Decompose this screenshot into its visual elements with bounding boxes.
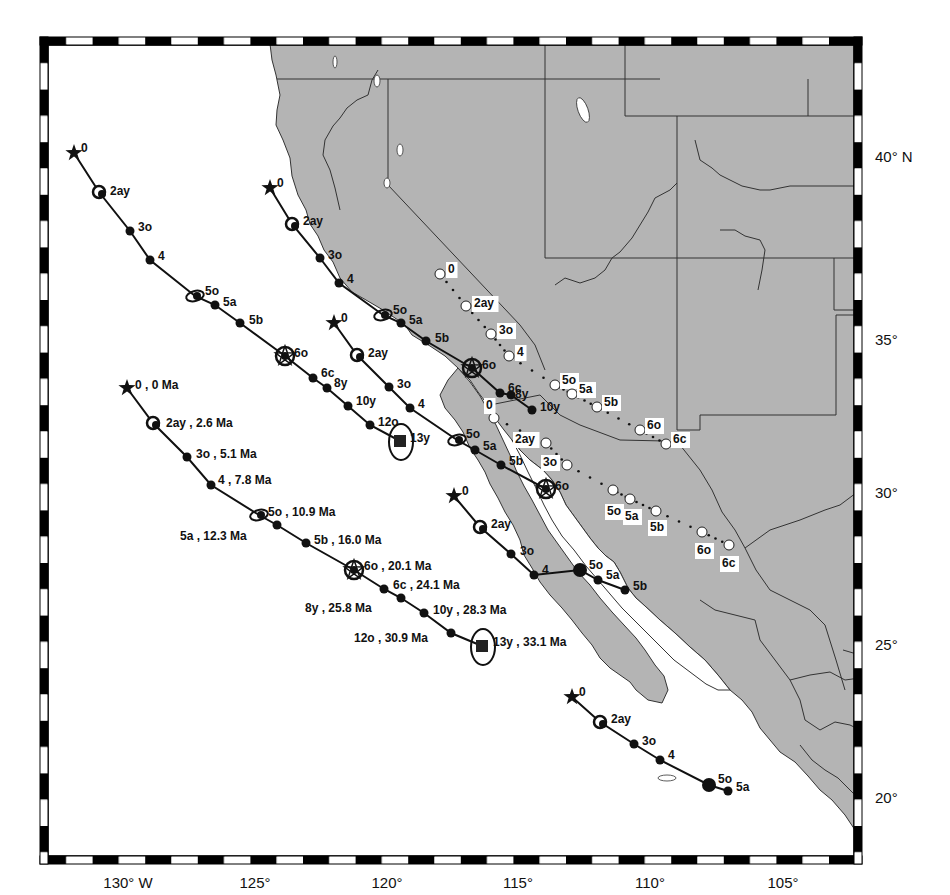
lon-label: 120°: [371, 874, 402, 891]
open-circle-marker-icon: [567, 389, 577, 399]
point-label: 4: [347, 272, 354, 286]
point-label: 6c , 24.1 Ma: [393, 578, 460, 592]
point-label: 8y: [515, 387, 529, 401]
frame-ticks-top: [40, 37, 862, 45]
dotted-path: [617, 417, 620, 420]
longitude-labels: 130° W 125° 120° 115° 110° 105°: [103, 874, 798, 891]
lon-label: 130° W: [103, 874, 153, 891]
point-label: 8y , 25.8 Ma: [305, 601, 372, 615]
point-label: 6o: [647, 418, 661, 432]
point-label: 5b: [249, 313, 263, 327]
point-label: 5a: [409, 313, 423, 327]
dot-marker-icon: [530, 571, 539, 580]
point-label: 4: [517, 345, 524, 359]
dot-marker-icon: [656, 756, 665, 765]
point-label: 2ay: [515, 432, 535, 446]
ring-marker-icon: [286, 218, 299, 230]
lat-label: 30°: [875, 484, 898, 501]
point-label: 5o: [718, 772, 732, 786]
open-circle-marker-icon: [562, 460, 572, 470]
dotted-path: [600, 482, 603, 485]
open-circle-marker-icon: [625, 494, 635, 504]
open-circle-marker-icon: [661, 439, 671, 449]
dotted-path: [452, 289, 455, 292]
dot-marker-icon: [380, 585, 389, 594]
lon-label: 110°: [635, 874, 665, 891]
open-circle-marker-icon: [697, 527, 707, 537]
open-circle-marker-icon: [541, 438, 551, 448]
point-label: 3o: [543, 455, 557, 469]
point-label: 6o: [482, 358, 496, 372]
dot-marker-icon: [236, 319, 245, 328]
dot-marker-icon: [302, 539, 311, 548]
open-circle-marker-icon: [635, 425, 645, 435]
point-label: 5o: [393, 303, 407, 317]
latitude-labels: 40° N 35° 30° 25° 20°: [875, 148, 913, 806]
dotted-path: [499, 344, 502, 347]
dot-marker-icon: [211, 301, 220, 310]
lat-label: 40° N: [875, 148, 913, 165]
point-label: 5b , 16.0 Ma: [314, 533, 382, 547]
dotted-path: [589, 476, 592, 479]
dot-marker-icon: [447, 629, 456, 638]
dot-marker-icon: [323, 384, 332, 393]
open-circle-marker-icon: [486, 329, 496, 339]
point-label: 13y , 33.1 Ma: [493, 635, 567, 649]
point-label: 5b: [650, 520, 664, 534]
dotted-path: [477, 319, 480, 322]
dot-marker-icon: [422, 337, 431, 346]
dotted-path: [494, 338, 497, 341]
dot-marker-icon: [420, 609, 429, 618]
open-circle-marker-icon: [608, 485, 618, 495]
ring-marker-icon: [351, 349, 364, 361]
dot-marker-icon: [183, 453, 192, 462]
open-circle-marker-icon: [435, 269, 445, 279]
point-label: 0: [81, 141, 88, 155]
point-label: 6c: [321, 366, 335, 380]
point-label: 5o , 10.9 Ma: [268, 505, 336, 519]
dotted-path: [503, 349, 506, 352]
dot-marker-icon: [207, 481, 216, 490]
point-label: 4: [158, 249, 165, 263]
point-label: 5o: [205, 284, 219, 298]
ring-marker-icon: [147, 417, 160, 429]
ring-marker-icon: [474, 521, 487, 533]
dot-marker-icon: [344, 402, 353, 411]
point-label: 5b: [509, 454, 523, 468]
point-label: 8y: [334, 376, 348, 390]
open-circle-marker-icon: [651, 506, 661, 516]
dotted-path: [445, 281, 448, 284]
point-label: 5a: [579, 382, 593, 396]
point-label: 5o: [607, 504, 621, 518]
point-label: 5a , 12.3 Ma: [180, 529, 247, 543]
point-label: 2ay: [303, 214, 323, 228]
open-circle-marker-icon: [592, 402, 602, 412]
point-label: 4: [542, 563, 549, 577]
dotted-path: [666, 515, 669, 518]
point-label: 2ay: [611, 712, 631, 726]
point-label: 2ay , 2.6 Ma: [166, 416, 233, 430]
point-label: 3o: [499, 323, 513, 337]
point-label: 4 , 7.8 Ma: [218, 473, 272, 487]
frame-ticks-left: [40, 37, 48, 864]
point-label: 3o , 5.1 Ma: [196, 447, 257, 461]
dot-marker-icon: [126, 227, 135, 236]
point-label: 5o: [589, 558, 603, 572]
dot-marker-icon: [471, 446, 480, 455]
point-label: 0: [486, 398, 493, 412]
dotted-path: [550, 447, 553, 450]
frame-ticks-bottom: [40, 856, 862, 864]
point-label: 6o: [697, 543, 711, 557]
dot-marker-icon: [621, 586, 630, 595]
dot-marker-icon: [397, 319, 406, 328]
dot-marker-icon: [497, 461, 506, 470]
open-circle-marker-icon: [550, 380, 560, 390]
dot-marker-icon: [630, 740, 639, 749]
dotted-path: [519, 362, 522, 365]
dotted-path: [721, 540, 724, 543]
point-label: 3o: [397, 377, 411, 391]
open-circle-marker-icon: [504, 351, 514, 361]
dotted-path: [635, 501, 638, 504]
point-label: 5b: [633, 579, 647, 593]
dotted-path: [689, 525, 692, 528]
